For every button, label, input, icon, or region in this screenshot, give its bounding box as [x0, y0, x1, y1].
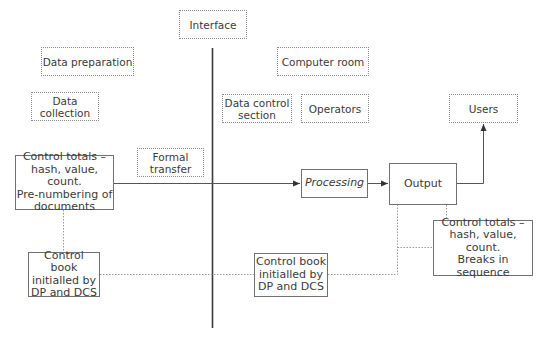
- region-data-collection-label: Data collection: [40, 95, 90, 119]
- region-formal-transfer-label: Formal transfer: [150, 151, 191, 175]
- region-data-preparation-label: Data preparation: [43, 56, 133, 68]
- node-control-totals-output: Control totals – hash, value, count. Bre…: [433, 220, 533, 276]
- region-data-collection: Data collection: [31, 92, 99, 121]
- region-computer-room: Computer room: [277, 47, 369, 76]
- node-processing-label: Processing: [305, 177, 364, 190]
- region-data-preparation: Data preparation: [41, 47, 134, 76]
- region-interface: Interface: [179, 10, 247, 39]
- region-interface-label: Interface: [189, 19, 236, 31]
- region-users-label: Users: [469, 103, 498, 115]
- node-control-totals-output-label: Control totals – hash, value, count. Bre…: [434, 217, 532, 280]
- node-control-totals-input: Control totals – hash, value, count. Pre…: [15, 155, 114, 210]
- region-computer-room-label: Computer room: [282, 56, 365, 68]
- region-formal-transfer: Formal transfer: [137, 148, 204, 177]
- node-output-label: Output: [404, 178, 442, 191]
- region-data-control-section-label: Data control section: [225, 97, 290, 121]
- edge-output-to-users: [457, 124, 484, 184]
- node-output: Output: [389, 163, 457, 205]
- region-users: Users: [449, 94, 518, 123]
- diagram-canvas: Interface Data preparation Data collecti…: [0, 0, 550, 344]
- region-operators-label: Operators: [309, 103, 361, 115]
- region-data-control-section: Data control section: [222, 94, 292, 123]
- node-processing: Processing: [301, 169, 368, 198]
- region-operators: Operators: [301, 94, 369, 123]
- node-control-book-left: Control book initialled by DP and DCS: [28, 252, 100, 297]
- node-control-book-right-label: Control book initialled by DP and DCS: [256, 256, 326, 294]
- node-control-book-right: Control book initialled by DP and DCS: [254, 253, 328, 297]
- node-control-totals-input-label: Control totals – hash, value, count. Pre…: [16, 151, 113, 214]
- edge-controlbook-to-output: [328, 205, 398, 275]
- node-control-book-left-label: Control book initialled by DP and DCS: [29, 250, 99, 300]
